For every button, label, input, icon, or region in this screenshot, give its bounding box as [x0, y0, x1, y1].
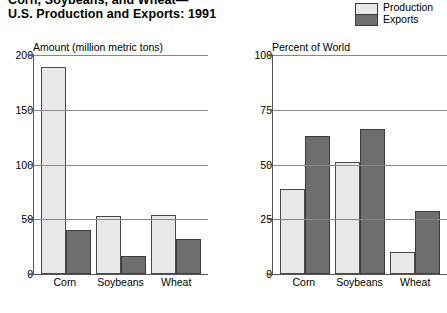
bar-corn-production	[41, 67, 66, 274]
gridline-100	[34, 165, 208, 166]
legend-label-exports: Exports	[383, 14, 433, 26]
plot-area-amount	[33, 55, 208, 275]
gridline-200	[34, 55, 208, 56]
bar-wheat-production	[151, 215, 176, 274]
bar-wheat-production	[390, 252, 415, 274]
page-title-line-2: U.S. Production and Exports: 1991	[8, 7, 308, 21]
y-tick-mark-100	[29, 164, 34, 166]
y-tick-mark-75	[268, 109, 273, 111]
y-tick-mark-0	[268, 273, 273, 275]
chart-panel-amount: Amount (million metric tons) 05010015020…	[3, 41, 208, 280]
gridline-50	[34, 219, 208, 220]
plot-wrap-percent: 0255075100 CornSoybeansWheat	[242, 55, 447, 280]
x-axis-labels-amount: CornSoybeansWheat	[33, 276, 208, 288]
legend-swatch-stack	[355, 3, 378, 26]
gridline-75	[273, 110, 447, 111]
y-tick-mark-200	[29, 54, 34, 56]
chart-legend: Production Exports	[355, 2, 433, 26]
gridline-150	[34, 110, 208, 111]
legend-label-stack: Production Exports	[383, 2, 433, 25]
gridline-50	[273, 165, 447, 166]
bar-corn-exports	[66, 230, 91, 274]
x-tick-label-soybeans: Soybeans	[332, 276, 388, 288]
bar-wheat-exports	[176, 239, 201, 274]
legend-label-production: Production	[383, 2, 433, 14]
x-tick-label-wheat: Wheat	[148, 276, 204, 288]
x-tick-label-corn: Corn	[276, 276, 332, 288]
y-tick-mark-50	[268, 164, 273, 166]
y-tick-mark-0	[29, 273, 34, 275]
bar-soybeans-production	[335, 162, 360, 274]
x-tick-label-corn: Corn	[37, 276, 93, 288]
y-tick-mark-25	[268, 219, 273, 221]
legend-swatch-production-icon	[356, 4, 377, 15]
bar-corn-exports	[305, 136, 330, 274]
chart-panel-percent: Percent of World 0255075100 CornSoybeans…	[242, 41, 447, 280]
plot-area-percent	[272, 55, 447, 275]
y-tick-mark-150	[29, 109, 34, 111]
legend-swatch-exports-icon	[356, 15, 377, 25]
y-tick-mark-50	[29, 219, 34, 221]
x-axis-labels-percent: CornSoybeansWheat	[272, 276, 447, 288]
x-tick-label-soybeans: Soybeans	[93, 276, 149, 288]
bar-soybeans-exports	[121, 256, 146, 274]
chart-title-block: Corn, Soybeans, and Wheat— U.S. Producti…	[8, 0, 308, 21]
panel-title-amount: Amount (million metric tons)	[33, 41, 208, 53]
panel-title-percent: Percent of World	[272, 41, 447, 53]
gridline-100	[273, 55, 447, 56]
page-title-line-1: Corn, Soybeans, and Wheat—	[8, 0, 308, 7]
y-tick-mark-100	[268, 54, 273, 56]
bar-corn-production	[280, 189, 305, 274]
x-tick-label-wheat: Wheat	[387, 276, 443, 288]
bar-soybeans-exports	[360, 129, 385, 274]
bar-soybeans-production	[96, 216, 121, 274]
plot-wrap-amount: 050100150200 CornSoybeansWheat	[3, 55, 208, 280]
gridline-25	[273, 219, 447, 220]
